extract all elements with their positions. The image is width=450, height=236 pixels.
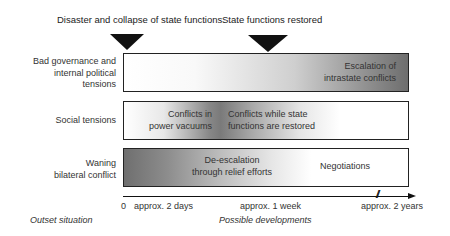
row-box-bad-governance: Escalation of intrastate conflicts: [123, 53, 409, 92]
row-label-line: Bad governance and: [4, 56, 116, 68]
axis-break-icon: //: [376, 189, 378, 200]
tick-label-2-years: approx. 2 years: [361, 201, 423, 211]
box-text-escalation: Escalation of intrastate conflicts: [324, 61, 396, 84]
row-label-line: Social tensions: [4, 115, 116, 127]
triangle-marker-icon: [248, 35, 288, 52]
box-text-line: functions are restored: [228, 121, 315, 133]
row-label-line: bilateral conflict: [4, 170, 116, 182]
box-text-while-restored: Conflicts while state functions are rest…: [228, 109, 315, 132]
row-label-bad-governance: Bad governance and internal political te…: [4, 56, 116, 91]
box-text-line: Negotiations: [320, 161, 370, 173]
box-text-line: Conflicts while state: [228, 109, 315, 121]
triangle-marker-icon: [110, 34, 144, 50]
row-label-line: Waning: [4, 158, 116, 170]
time-axis-line: [123, 196, 410, 197]
event-label-restored: State functions restored: [222, 14, 322, 25]
row-label-line: internal political: [4, 68, 116, 80]
footer-possible-developments: Possible developments: [219, 215, 312, 225]
row-label-line: tensions: [4, 79, 116, 91]
row-box-waning-conflict: De-escalation through relief efforts Neg…: [123, 148, 409, 187]
box-text-line: Conflicts in: [148, 109, 212, 121]
box-text-line: De-escalation: [184, 155, 280, 167]
box-text-line: power vacuums: [148, 121, 212, 133]
row-box-social-tensions: Conflicts in power vacuums Conflicts whi…: [123, 101, 409, 140]
box-text-line: intrastate conflicts: [324, 73, 396, 85]
box-text-negotiations: Negotiations: [320, 161, 370, 173]
axis-arrow-icon: [408, 193, 416, 199]
box-text-power-vacuums: Conflicts in power vacuums: [148, 109, 212, 132]
tick-label-0: 0: [121, 201, 126, 211]
box-text-de-escalation: De-escalation through relief efforts: [184, 155, 280, 178]
footer-outset-situation: Outset situation: [30, 215, 93, 225]
event-label-disaster: Disaster and collapse of state functions: [57, 14, 222, 25]
tick-label-1-week: approx. 1 week: [240, 201, 301, 211]
tick-label-2-days: approx. 2 days: [134, 201, 193, 211]
box-text-line: Escalation of: [324, 61, 396, 73]
box-text-line: through relief efforts: [184, 167, 280, 179]
row-label-social-tensions: Social tensions: [4, 115, 116, 127]
row-label-waning-conflict: Waning bilateral conflict: [4, 158, 116, 181]
